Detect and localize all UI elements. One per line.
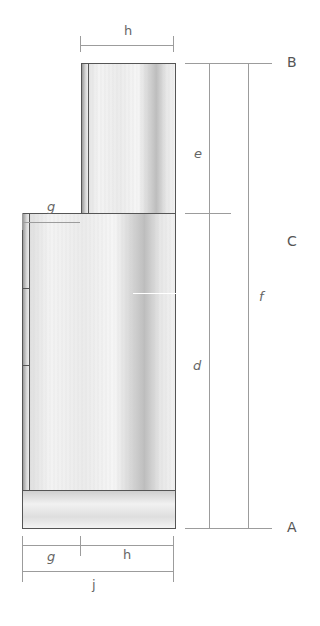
plinth [22, 490, 176, 529]
label-overall-width: j [92, 578, 96, 591]
side-strip-break-2 [23, 365, 30, 366]
highlight-line [133, 293, 176, 294]
dim-line-f [248, 63, 249, 528]
dim-tick-top-right [173, 36, 174, 52]
ref-label-C: C [287, 234, 297, 248]
dim-tick-bottom-mid [80, 536, 81, 556]
dim-tick-bottom-right [173, 536, 174, 582]
label-bottom-offset: g [47, 550, 55, 563]
upper-cabinet [81, 63, 176, 214]
label-upper-height: e [194, 147, 202, 160]
dim-tick-top-left [80, 36, 81, 52]
lower-cabinet [22, 213, 176, 491]
ref-label-B: B [287, 55, 297, 69]
label-total-height: f [259, 290, 264, 303]
dim-line-upper-offset [22, 222, 80, 223]
ref-line-C [185, 213, 231, 214]
label-top-width: h [124, 24, 132, 37]
upper-cabinet-side-strip [82, 64, 89, 213]
dim-tick-bottom-left [22, 536, 23, 582]
lower-cabinet-side-strip [23, 214, 30, 490]
dim-line-top-width [80, 45, 174, 46]
ref-label-A: A [287, 520, 297, 534]
label-lower-height: d [193, 359, 201, 372]
dim-tick-upper-offset [22, 213, 23, 230]
ref-line-B [185, 63, 272, 64]
dim-line-overall-width [22, 571, 174, 572]
dim-line-bottom-split [22, 545, 174, 546]
ref-line-A [185, 528, 272, 529]
side-strip-break-1 [23, 288, 30, 289]
label-bottom-width: h [123, 548, 131, 561]
label-upper-offset: g [47, 200, 55, 213]
dim-line-e-d [209, 63, 210, 528]
